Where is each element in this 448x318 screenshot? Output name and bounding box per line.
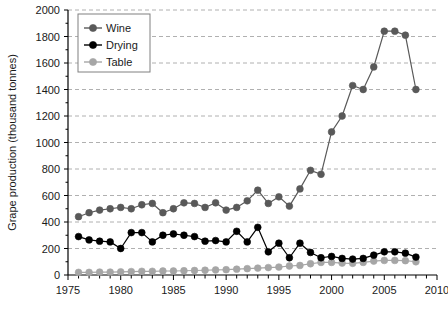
grape-production-chart: 0200400600800100012001400160018002000 19… bbox=[0, 0, 448, 318]
data-point bbox=[75, 269, 82, 276]
y-tick-label: 1000 bbox=[36, 137, 60, 149]
data-point bbox=[128, 229, 135, 236]
x-tick-label: 2000 bbox=[319, 284, 343, 296]
data-point bbox=[244, 197, 251, 204]
data-point bbox=[75, 213, 82, 220]
data-point bbox=[265, 248, 272, 255]
data-point bbox=[286, 254, 293, 261]
data-point bbox=[170, 268, 177, 275]
data-point bbox=[391, 28, 398, 35]
data-point bbox=[307, 260, 314, 267]
data-point bbox=[96, 207, 103, 214]
x-tick-label: 2010 bbox=[425, 284, 448, 296]
data-point bbox=[233, 266, 240, 273]
series-table bbox=[75, 257, 419, 276]
legend-label: Drying bbox=[106, 39, 138, 51]
data-point bbox=[128, 205, 135, 212]
data-point bbox=[275, 240, 282, 247]
data-point bbox=[244, 238, 251, 245]
data-point bbox=[381, 248, 388, 255]
data-point bbox=[254, 265, 261, 272]
data-point bbox=[370, 252, 377, 259]
data-point bbox=[149, 238, 156, 245]
legend-label: Table bbox=[106, 56, 132, 68]
y-axis-title: Grape production (thousand tonnes) bbox=[6, 54, 18, 231]
data-point bbox=[275, 264, 282, 271]
data-point bbox=[75, 233, 82, 240]
data-point bbox=[117, 245, 124, 252]
y-axis-title-text: Grape production (thousand tonnes) bbox=[6, 54, 18, 231]
x-tick-label: 1985 bbox=[161, 284, 185, 296]
data-point bbox=[413, 86, 420, 93]
y-tick-label: 200 bbox=[42, 243, 60, 255]
data-point bbox=[170, 231, 177, 238]
data-point bbox=[265, 264, 272, 271]
y-tick-label: 1400 bbox=[36, 84, 60, 96]
data-point bbox=[381, 257, 388, 264]
data-point bbox=[212, 267, 219, 274]
data-point bbox=[202, 238, 209, 245]
x-tick-label: 1995 bbox=[267, 284, 291, 296]
legend-marker bbox=[89, 58, 96, 65]
y-tick-label: 1600 bbox=[36, 57, 60, 69]
data-point bbox=[391, 248, 398, 255]
data-point bbox=[181, 199, 188, 206]
data-point bbox=[107, 238, 114, 245]
data-point bbox=[181, 232, 188, 239]
data-point bbox=[86, 209, 93, 216]
data-point bbox=[107, 269, 114, 276]
data-point bbox=[212, 199, 219, 206]
data-point bbox=[244, 265, 251, 272]
x-tick-label: 1990 bbox=[214, 284, 238, 296]
data-point bbox=[159, 232, 166, 239]
data-point bbox=[170, 205, 177, 212]
data-point bbox=[297, 262, 304, 269]
data-point bbox=[275, 193, 282, 200]
x-tick-label: 1980 bbox=[108, 284, 132, 296]
data-point bbox=[159, 268, 166, 275]
y-tick-label: 800 bbox=[42, 163, 60, 175]
data-point bbox=[328, 253, 335, 260]
data-point bbox=[202, 204, 209, 211]
data-point bbox=[117, 204, 124, 211]
y-tick-label: 400 bbox=[42, 216, 60, 228]
data-point bbox=[413, 254, 420, 261]
data-point bbox=[181, 267, 188, 274]
chart-legend: WineDryingTable bbox=[78, 14, 150, 72]
data-point bbox=[223, 266, 230, 273]
series-drying bbox=[75, 224, 419, 263]
data-point bbox=[297, 185, 304, 192]
data-point bbox=[339, 113, 346, 120]
data-point bbox=[138, 201, 145, 208]
y-tick-label: 1200 bbox=[36, 110, 60, 122]
data-point bbox=[159, 209, 166, 216]
data-point bbox=[297, 240, 304, 247]
chart-canvas: 0200400600800100012001400160018002000 19… bbox=[0, 0, 448, 318]
data-point bbox=[233, 204, 240, 211]
legend-marker bbox=[89, 24, 96, 31]
y-tick-label: 0 bbox=[54, 269, 60, 281]
data-point bbox=[265, 200, 272, 207]
data-point bbox=[191, 267, 198, 274]
y-tick-label: 2000 bbox=[36, 4, 60, 16]
data-point bbox=[191, 200, 198, 207]
data-point bbox=[402, 257, 409, 264]
data-point bbox=[318, 254, 325, 261]
data-point bbox=[402, 32, 409, 39]
data-point bbox=[349, 256, 356, 263]
data-point bbox=[138, 229, 145, 236]
data-point bbox=[223, 238, 230, 245]
data-point bbox=[381, 28, 388, 35]
data-point bbox=[254, 187, 261, 194]
legend-marker bbox=[89, 41, 96, 48]
data-point bbox=[370, 64, 377, 71]
data-point bbox=[212, 237, 219, 244]
data-point bbox=[307, 167, 314, 174]
data-point bbox=[402, 250, 409, 257]
legend-label: Wine bbox=[106, 22, 131, 34]
data-point bbox=[254, 224, 261, 231]
data-point bbox=[339, 255, 346, 262]
data-point bbox=[86, 269, 93, 276]
x-tick-label: 1975 bbox=[56, 284, 80, 296]
data-point bbox=[149, 200, 156, 207]
